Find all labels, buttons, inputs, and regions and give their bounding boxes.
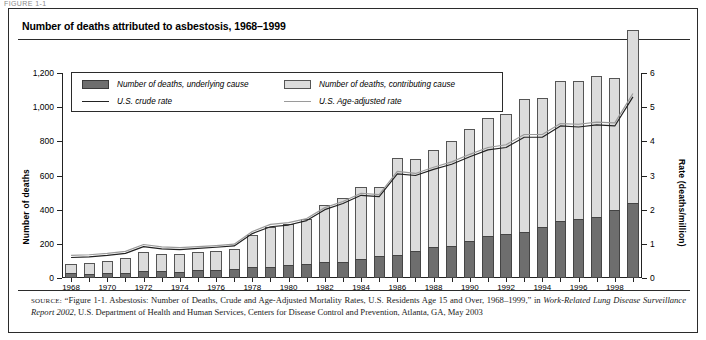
x-axis-tick <box>488 278 489 282</box>
legend-label-age-adjusted-rate: U.S. Age-adjusted rate <box>319 97 402 106</box>
y-axis-title-right: Rate (deaths/million) <box>677 159 687 247</box>
y-axis-tick-left <box>57 141 62 142</box>
x-axis-tick <box>343 278 344 282</box>
y-axis-tick-left <box>57 176 62 177</box>
x-axis-tick <box>524 278 525 282</box>
x-axis-tick <box>270 278 271 282</box>
y-axis-tick-right <box>642 176 647 177</box>
legend-label-underlying: Number of deaths, underlying cause <box>117 80 249 89</box>
x-axis-tick <box>542 278 543 282</box>
x-axis-tick <box>198 278 199 282</box>
x-axis-tick <box>144 278 145 282</box>
legend-item-contributing: Number of deaths, contributing cause <box>284 80 455 89</box>
y-axis-label-left: 1,200 <box>33 68 54 78</box>
x-axis-tick <box>216 278 217 282</box>
x-axis-tick <box>361 278 362 282</box>
y-axis-label-left: 800 <box>40 136 54 146</box>
y-axis-label-right: 5 <box>650 102 655 112</box>
y-axis-label-right: 3 <box>650 171 655 181</box>
x-axis-tick <box>633 278 634 282</box>
x-axis-tick <box>379 278 380 282</box>
y-axis-label-left: 400 <box>40 205 54 215</box>
legend-label-contributing: Number of deaths, contributing cause <box>319 80 455 89</box>
y-axis-label-right: 0 <box>650 273 655 283</box>
figure-page: FIGURE 1-1 Number of deaths attributed t… <box>0 0 706 340</box>
cutoff-header-text: FIGURE 1-1 <box>4 0 124 7</box>
x-axis-tick <box>125 278 126 282</box>
y-axis-tick-left <box>57 107 62 108</box>
x-axis-tick <box>415 278 416 282</box>
x-axis-tick <box>289 278 290 282</box>
y-axis-tick-right <box>642 107 647 108</box>
source-divider <box>18 290 690 291</box>
source-prefix: SOURCE: <box>31 297 62 305</box>
y-axis-label-right: 1 <box>650 239 655 249</box>
legend-item-crude-rate: U.S. crude rate <box>82 97 172 106</box>
x-axis-tick <box>180 278 181 282</box>
y-axis-tick-right <box>642 210 647 211</box>
figure-container: Number of deaths attributed to asbestosi… <box>8 8 698 333</box>
source-note: SOURCE: “Figure 1-1. Asbestosis: Number … <box>31 295 686 318</box>
x-axis-tick <box>252 278 253 282</box>
legend-line-age-adjusted-icon <box>284 101 311 102</box>
x-axis-tick <box>579 278 580 282</box>
y-axis-label-right: 6 <box>650 68 655 78</box>
x-axis-tick <box>234 278 235 282</box>
legend-swatch-underlying-icon <box>82 80 109 89</box>
x-axis-tick <box>470 278 471 282</box>
y-axis-tick-right <box>642 73 647 74</box>
y-axis-label-right: 4 <box>650 136 655 146</box>
x-axis-tick <box>597 278 598 282</box>
x-axis-tick <box>397 278 398 282</box>
x-axis-tick <box>107 278 108 282</box>
y-axis-tick-left <box>57 210 62 211</box>
y-axis-tick-left <box>57 278 62 279</box>
legend-item-age-adjusted-rate: U.S. Age-adjusted rate <box>284 97 402 106</box>
x-axis-tick <box>560 278 561 282</box>
x-axis-tick <box>71 278 72 282</box>
x-axis-tick <box>506 278 507 282</box>
x-axis-tick <box>434 278 435 282</box>
y-axis-tick-left <box>57 244 62 245</box>
legend-line-crude-icon <box>82 101 109 102</box>
legend-swatch-contributing-icon <box>284 80 311 89</box>
legend-item-underlying: Number of deaths, underlying cause <box>82 80 249 89</box>
y-axis-label-left: 600 <box>40 171 54 181</box>
y-axis-title-left: Number of deaths <box>21 169 31 244</box>
x-axis-tick <box>452 278 453 282</box>
y-axis-tick-left <box>57 73 62 74</box>
line-u-s-crude-rate <box>71 97 633 258</box>
x-axis-tick <box>325 278 326 282</box>
x-axis-tick <box>307 278 308 282</box>
x-axis-tick <box>162 278 163 282</box>
y-axis-label-left: 0 <box>49 273 54 283</box>
y-axis-label-left: 1,000 <box>33 102 54 112</box>
chart-legend: Number of deaths, underlying cause Numbe… <box>71 72 503 112</box>
legend-label-crude-rate: U.S. crude rate <box>117 97 172 106</box>
figure-title: Number of deaths attributed to asbestosi… <box>22 20 286 32</box>
x-axis-tick <box>89 278 90 282</box>
y-axis-label-right: 2 <box>650 205 655 215</box>
line-u-s-age-adjusted-rate <box>71 94 633 256</box>
y-axis-tick-right <box>642 141 647 142</box>
source-text-part1: “Figure 1-1. Asbestosis: Number of Death… <box>62 295 543 305</box>
x-axis-tick <box>615 278 616 282</box>
source-text-part2: , U.S. Department of Health and Human Se… <box>74 307 483 317</box>
y-axis-tick-right <box>642 244 647 245</box>
y-axis-label-left: 200 <box>40 239 54 249</box>
title-divider <box>18 39 690 40</box>
y-axis-tick-right <box>642 278 647 279</box>
